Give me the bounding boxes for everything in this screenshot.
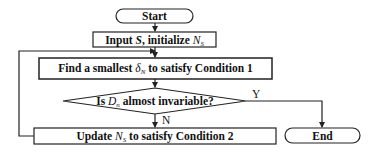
decision-node: Is Dn almost invariable? [63,88,246,114]
input-label: Input S, initialize NS [105,34,204,48]
no-label: N [162,114,171,126]
find-node: Find a smallest δN to satisfy Condition … [39,58,272,79]
input-node: Input S, initialize NS [93,32,216,48]
end-node: End [285,128,360,143]
update-label: Update NS to satisfy Condition 2 [76,130,233,144]
update-node: Update NS to satisfy Condition 2 [34,128,276,144]
end-label: End [312,130,333,142]
flowchart: Start Input S, initialize NS Find a smal… [0,0,375,152]
start-label: Start [142,10,167,22]
find-label: Find a smallest δN to satisfy Condition … [58,62,253,76]
decision-label: Is Dn almost invariable? [96,95,214,109]
start-node: Start [116,9,193,23]
yes-label: Y [252,88,261,100]
edge-decision-end [246,101,322,127]
